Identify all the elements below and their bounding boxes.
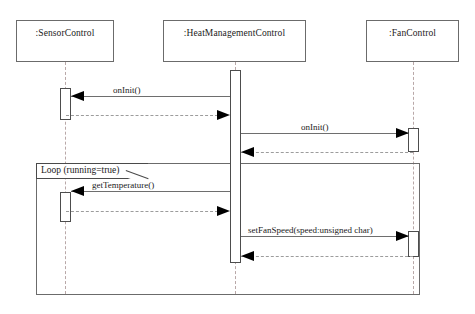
message-line-gettemperature[interactable] bbox=[71, 191, 230, 192]
message-label-oninit-fan: onInit() bbox=[301, 122, 329, 132]
lifeline-label-heatmanagementcontrol: :HeatManagementControl bbox=[184, 28, 285, 38]
lifeline-header-fancontrol[interactable]: :FanControl bbox=[366, 20, 459, 62]
message-label-setfanspeed: setFanSpeed(speed:unsigned char) bbox=[248, 225, 373, 235]
message-label-oninit-sensor: onInit() bbox=[113, 85, 141, 95]
message-line-gettemperature-return[interactable] bbox=[66, 211, 218, 212]
message-arrowhead-gettemperature bbox=[71, 186, 84, 196]
message-label-gettemperature: getTemperature() bbox=[92, 180, 154, 190]
message-arrowhead-setfanspeed-return bbox=[241, 251, 254, 261]
message-line-oninit-sensor-return[interactable] bbox=[66, 115, 218, 116]
message-arrowhead-oninit-sensor-return bbox=[217, 110, 230, 120]
message-arrowhead-oninit-fan-return bbox=[241, 147, 254, 157]
sequence-diagram-canvas: :SensorControl :HeatManagementControl :F… bbox=[0, 0, 475, 314]
message-line-setfanspeed[interactable] bbox=[241, 236, 408, 237]
message-line-oninit-fan[interactable] bbox=[241, 133, 408, 134]
activation-bar-fancontrol-setfanspeed[interactable] bbox=[408, 231, 419, 257]
lifeline-label-fancontrol: :FanControl bbox=[389, 28, 436, 38]
loop-fragment-label: Loop (running=true) bbox=[41, 165, 119, 175]
lifeline-header-sensorcontrol[interactable]: :SensorControl bbox=[16, 20, 114, 62]
message-arrowhead-oninit-fan bbox=[396, 128, 409, 138]
lifeline-header-heatmanagementcontrol[interactable]: :HeatManagementControl bbox=[163, 20, 306, 62]
activation-bar-heatmanagementcontrol[interactable] bbox=[230, 70, 241, 263]
message-line-setfanspeed-return[interactable] bbox=[241, 256, 413, 257]
message-arrowhead-gettemperature-return bbox=[217, 206, 230, 216]
message-arrowhead-setfanspeed bbox=[396, 231, 409, 241]
message-line-oninit-fan-return[interactable] bbox=[241, 152, 413, 153]
lifeline-label-sensorcontrol: :SensorControl bbox=[36, 28, 95, 38]
activation-bar-fancontrol-oninit[interactable] bbox=[408, 128, 419, 152]
activation-bar-sensorcontrol-gettemperature[interactable] bbox=[60, 192, 71, 222]
loop-fragment-tab-bottom-edge bbox=[36, 178, 128, 179]
message-arrowhead-oninit-sensor bbox=[71, 91, 84, 101]
message-line-oninit-sensor[interactable] bbox=[71, 96, 230, 97]
